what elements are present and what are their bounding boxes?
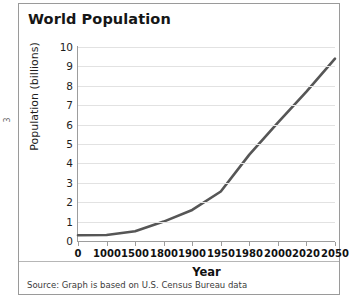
- gridline: [78, 202, 335, 203]
- gridline: [78, 105, 335, 106]
- y-axis-tick-label: 3: [57, 178, 73, 188]
- y-axis-tick-label: 9: [57, 61, 73, 71]
- x-axis-tick-label: 2050: [315, 248, 354, 259]
- figure-frame: World Population Population (billions) 1…: [18, 3, 340, 295]
- y-axis-title: Population (billions): [28, 32, 41, 162]
- page-number-marker: 3: [1, 114, 15, 126]
- x-axis-ticks: [78, 242, 335, 247]
- gridline: [78, 66, 335, 67]
- gridline: [78, 125, 335, 126]
- y-axis-tick-label: 10: [57, 42, 73, 52]
- source-divider: [19, 261, 339, 262]
- plot-area: [78, 47, 335, 241]
- y-axis-tick-label: 0: [57, 236, 73, 246]
- x-axis-tick: [135, 242, 136, 246]
- y-axis-tick-label: 1: [57, 217, 73, 227]
- gridline: [78, 222, 335, 223]
- y-axis-tick-label: 2: [57, 197, 73, 207]
- y-axis-tick-label: 5: [57, 139, 73, 149]
- x-axis-tick-labels: 0100015001800190019501980200020202050: [78, 248, 335, 262]
- y-axis-tick-labels: 109876543210: [55, 47, 73, 241]
- source-note: Source: Graph is based on U.S. Census Bu…: [27, 280, 247, 290]
- gridline: [78, 163, 335, 164]
- x-axis-tick: [107, 242, 108, 246]
- gridline: [78, 86, 335, 87]
- gridline: [78, 47, 335, 48]
- x-axis-tick: [278, 242, 279, 246]
- y-axis-tick-label: 8: [57, 81, 73, 91]
- x-axis-tick: [335, 242, 336, 246]
- x-axis-tick: [164, 242, 165, 246]
- y-axis-tick-label: 4: [57, 158, 73, 168]
- y-axis-tick-label: 7: [57, 100, 73, 110]
- x-axis-tick: [221, 242, 222, 246]
- x-axis-tick: [249, 242, 250, 246]
- gridline: [78, 183, 335, 184]
- gridline: [78, 144, 335, 145]
- x-axis-tick: [192, 242, 193, 246]
- page-title: World Population: [28, 11, 171, 27]
- y-axis-tick-label: 6: [57, 120, 73, 130]
- x-axis-tick: [78, 242, 79, 246]
- x-axis-tick: [306, 242, 307, 246]
- x-axis-title: Year: [78, 265, 335, 279]
